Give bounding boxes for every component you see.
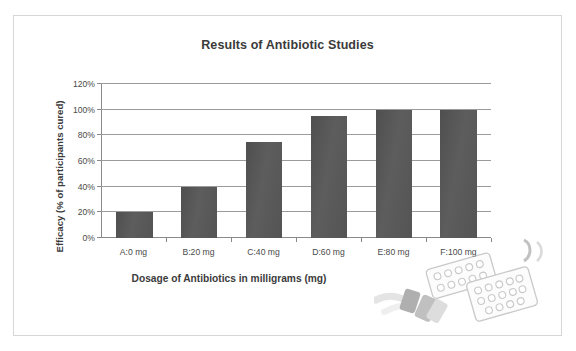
y-tick-label-20%: 20%	[78, 207, 95, 217]
y-tick-label-60%: 60%	[78, 156, 95, 166]
y-axis-title: Efficacy (% of participants cured)	[54, 92, 65, 262]
y-tick-label-120%: 120%	[73, 79, 95, 89]
y-tick-label-80%: 80%	[78, 130, 95, 140]
plot-area: 0%20%40%60%80%100%120% A:0 mgB:20 mgC:40…	[101, 84, 491, 238]
x-category-label-b: B:20 mg	[182, 247, 214, 257]
y-tick-mark-80%	[97, 134, 101, 135]
x-tick-mark	[426, 238, 427, 242]
x-tick-mark	[231, 238, 232, 242]
y-tick-mark-0%	[97, 237, 101, 238]
chart-title: Results of Antibiotic Studies	[14, 38, 561, 52]
y-tick-mark-120%	[97, 83, 101, 84]
y-tick-label-40%: 40%	[78, 182, 95, 192]
x-category-label-e: E:80 mg	[377, 247, 409, 257]
bar-c[interactable]	[246, 142, 282, 238]
y-tick-mark-100%	[97, 109, 101, 110]
x-tick-mark	[361, 238, 362, 242]
y-tick-label-100%: 100%	[73, 105, 95, 115]
bar-slot	[361, 84, 426, 238]
y-tick-mark-20%	[97, 211, 101, 212]
bar-slot	[232, 84, 297, 238]
bar-slot	[297, 84, 362, 238]
bar-slot	[426, 84, 491, 238]
x-category-label-f: F:100 mg	[440, 247, 476, 257]
x-axis-title: Dosage of Antibiotics in milligrams (mg)	[14, 273, 444, 284]
x-tick-mark	[296, 238, 297, 242]
x-category-label-a: A:0 mg	[120, 247, 147, 257]
x-tick-mark	[491, 238, 492, 242]
y-tick-label-0%: 0%	[83, 233, 95, 243]
bar-d[interactable]	[311, 116, 347, 238]
figure-frame: Results of Antibiotic Studies Efficacy (…	[13, 15, 562, 336]
bar-e[interactable]	[376, 110, 412, 238]
y-tick-mark-40%	[97, 186, 101, 187]
x-category-label-d: D:60 mg	[312, 247, 344, 257]
bar-b[interactable]	[181, 187, 217, 238]
bars-layer	[102, 84, 491, 238]
x-category-label-c: C:40 mg	[247, 247, 279, 257]
x-tick-mark	[166, 238, 167, 242]
bar-a[interactable]	[116, 212, 152, 238]
y-tick-mark-60%	[97, 160, 101, 161]
bar-slot	[102, 84, 167, 238]
bar-f[interactable]	[440, 110, 476, 238]
bar-slot	[167, 84, 232, 238]
